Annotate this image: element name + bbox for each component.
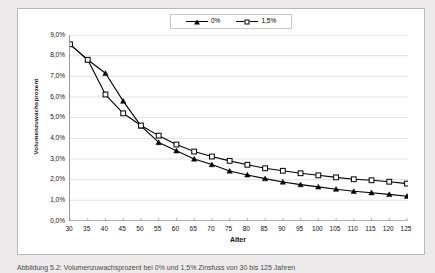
data-point-marker (156, 133, 161, 138)
data-point-marker (85, 57, 90, 62)
y-tick-label: 9,0% (31, 32, 65, 39)
y-tick-label: 2,0% (31, 176, 65, 183)
y-tick-label: 7,0% (31, 73, 65, 80)
data-point-marker (209, 154, 214, 159)
data-point-marker (245, 162, 250, 167)
data-point-marker (103, 92, 108, 97)
chart-figure: 0% 1,5% Volumenzuwachsprozent 0,0%1,0%2,… (0, 0, 435, 273)
figure-frame: 0% 1,5% Volumenzuwachsprozent 0,0%1,0%2,… (17, 8, 425, 255)
data-point-marker (174, 148, 179, 153)
data-point-marker (334, 175, 339, 180)
data-point-marker (387, 179, 392, 184)
series-line-0 (70, 44, 407, 196)
y-tick-label: 5,0% (31, 114, 65, 121)
data-point-marker (351, 177, 356, 182)
x-tick-label: 125 (396, 226, 416, 233)
data-point-marker (192, 149, 197, 154)
data-point-marker (70, 42, 72, 47)
data-point-marker (121, 111, 126, 116)
data-point-marker (298, 171, 303, 176)
figure-caption: Abbildung 5.2: Volumenzuwachsprozent bei… (17, 264, 425, 272)
data-point-marker (369, 178, 374, 183)
data-point-marker (227, 158, 232, 163)
data-point-marker (139, 123, 144, 128)
plot-wrapper: Volumenzuwachsprozent 0,0%1,0%2,0%3,0%4,… (18, 9, 426, 256)
data-point-marker (405, 181, 408, 186)
y-tick-label: 1,0% (31, 197, 65, 204)
y-tick-label: 3,0% (31, 156, 65, 163)
data-point-marker (280, 168, 285, 173)
data-point-marker (174, 142, 179, 147)
y-tick-label: 6,0% (31, 94, 65, 101)
data-point-marker (121, 99, 126, 104)
y-tick-label: 8,0% (31, 52, 65, 59)
chart-canvas (70, 35, 408, 221)
x-axis-title: Alter (69, 236, 407, 243)
data-point-marker (263, 166, 268, 171)
y-tick-label: 0,0% (31, 218, 65, 225)
data-point-marker (316, 173, 321, 178)
plot-area (69, 35, 407, 221)
y-tick-label: 4,0% (31, 135, 65, 142)
